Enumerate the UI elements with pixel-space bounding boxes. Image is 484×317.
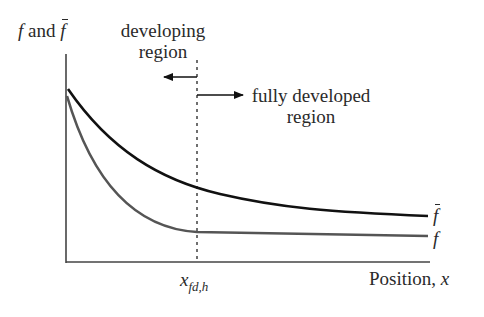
fully-developed-region-line2: region [246,106,376,127]
local-curve-label: f [433,228,438,249]
x-axis-label-symbol: x [441,268,449,289]
x-fd-h-subscript: fd,h [188,279,208,294]
developing-region-label: developing region [108,20,218,62]
mean-curve-symbol: f [433,205,438,226]
y-axis-connector: and [28,20,55,41]
y-axis-symbol-fbar: f [60,20,65,41]
fully-developed-region-line1: fully developed [246,85,376,106]
developing-region-line2: region [108,41,218,62]
mean-curve-label: f [433,205,438,226]
friction-factor-diagram: f and f developing region fully develope… [0,0,484,317]
x-axis-label-text: Position, [369,268,441,289]
developing-region-line1: developing [108,20,218,41]
y-axis-label: f and f [18,20,66,41]
fully-developed-region-label: fully developed region [246,85,376,127]
x-fd-h-label: xfd,h [180,269,208,290]
x-axis-label: Position, x [369,268,449,289]
y-axis-symbol-f: f [18,20,23,41]
local-curve-symbol: f [433,228,438,249]
